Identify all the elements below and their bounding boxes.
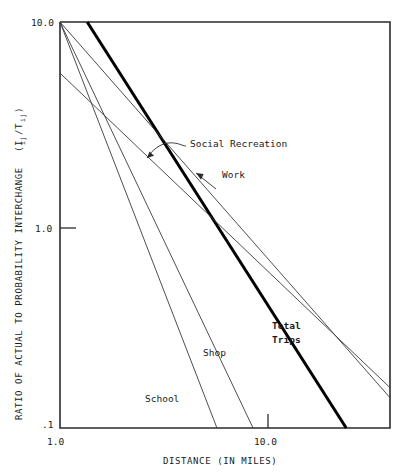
series-line-shop xyxy=(60,22,253,428)
series-line-total-trips xyxy=(87,22,346,428)
y-axis-title: RATIO OF ACTUAL TO PROBABILITY INTERCHAN… xyxy=(14,107,27,420)
annotation-school: School xyxy=(145,393,179,404)
y-tick-label-point1: .1 xyxy=(42,419,54,430)
y-axis-title-text: RATIO OF ACTUAL TO PROBABILITY INTERCHAN… xyxy=(14,167,24,420)
y-axis-symbol-sub2: ij xyxy=(19,113,27,122)
social-recreation-leader xyxy=(168,143,186,146)
series-line-social-recreation xyxy=(60,73,390,388)
y-axis-symbol-mid: /T xyxy=(14,123,24,135)
series-line-school xyxy=(60,22,217,428)
x-tick-label-10: 10.0 xyxy=(254,436,277,447)
y-axis-symbol-close: ) xyxy=(14,107,24,113)
y-tick-label-10: 10.0 xyxy=(31,17,54,28)
x-tick-label-1: 1.0 xyxy=(47,436,64,447)
series-layer xyxy=(60,22,390,428)
annotation-social-recreation: Social Recreation xyxy=(190,138,287,149)
social-recreation-arrowhead xyxy=(147,152,154,159)
annotation-shop: Shop xyxy=(203,347,226,358)
x-axis-title: DISTANCE (IN MILES) xyxy=(163,456,277,466)
log-log-chart: RATIO OF ACTUAL TO PROBABILITY INTERCHAN… xyxy=(0,0,418,472)
y-axis-symbol-sub1: ij xyxy=(19,136,27,145)
annotation-total-trips-line2: Trips xyxy=(272,334,301,345)
annotation-work: Work xyxy=(222,169,245,180)
figure-container: RATIO OF ACTUAL TO PROBABILITY INTERCHAN… xyxy=(0,0,418,472)
plot-frame xyxy=(60,22,390,428)
series-line-work xyxy=(60,22,390,398)
y-tick-label-1: 1.0 xyxy=(35,223,52,234)
annotation-total-trips-line1: Total xyxy=(272,320,301,331)
